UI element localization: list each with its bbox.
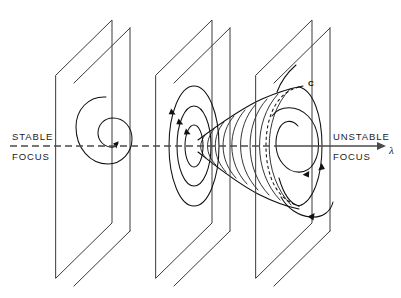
stable-focus-label-line1: STABLE [12, 131, 53, 142]
plane-unstable-focus-outline [256, 20, 312, 278]
inward-spiral [76, 97, 132, 164]
plane-unstable-focus-top-edge-2 [274, 28, 330, 83]
unstable-focus-label-line2: FOCUS [333, 151, 371, 162]
plane-bifurcation-top-edge-2 [174, 28, 230, 83]
closed-orbit-inner-arrowhead [184, 129, 191, 135]
paraboloid-rib-4 [223, 116, 236, 178]
paraboloid-lower-outline [198, 152, 299, 209]
incoming-trajectory [277, 65, 333, 221]
paraboloid-rib-3 [215, 122, 226, 172]
plane-stable-focus-bottom-edge-2 [74, 231, 130, 286]
plane-unstable-focus-bottom-edge-2 [274, 231, 330, 286]
outer-sweep-arrowhead [308, 213, 315, 221]
inward-spiral-arrowhead [113, 141, 118, 148]
lambda-axis-label: λ [388, 144, 394, 156]
stable-focus-label-line2: FOCUS [12, 151, 50, 162]
plane-bifurcation-outline [156, 20, 212, 278]
paraboloid-of-limit-cycles [198, 86, 303, 209]
unstable-focus-label-line1: UNSTABLE [333, 131, 390, 142]
plane-stable-focus-top-edge-2 [74, 28, 130, 83]
hopf-bifurcation-figure: STABLE FOCUS UNSTABLE FOCUS C λ [0, 0, 401, 298]
closed-orbit-middle-arrowhead [176, 119, 183, 125]
plane-bifurcation-bottom-edge-2 [174, 231, 230, 286]
plane-stable-focus [56, 20, 130, 286]
closed-orbit-middle [177, 106, 211, 186]
limit-cycle-arrowhead [318, 163, 325, 170]
inward-spiral-path [76, 97, 132, 164]
paraboloid-upper-outline [198, 86, 303, 140]
outer-sweep-path [281, 197, 333, 217]
plane-unstable-focus [256, 20, 330, 286]
plane-stable-focus-outline [56, 20, 112, 278]
diagram-canvas: STABLE FOCUS UNSTABLE FOCUS C λ [0, 0, 401, 298]
paraboloid-rib-9 [269, 89, 291, 205]
limit-cycle-label: C [308, 79, 314, 88]
lambda-axis-arrowhead [377, 142, 386, 150]
